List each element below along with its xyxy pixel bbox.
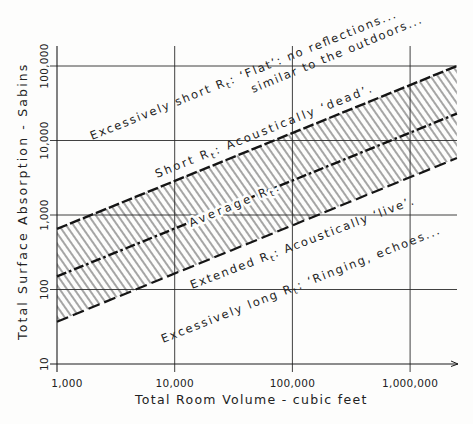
x-tick-label: 1,000,000 [382,377,438,389]
x-tick-label: 10,000 [155,377,194,389]
y-tick-label: 1,000 [38,199,50,231]
y-tick-label: 10,000 [38,121,50,160]
x-axis-title: Total Room Volume - cubic feet [134,392,367,407]
y-tick-label: 100 [38,279,50,300]
y-tick-labels: 101001,00010,000100,000 [38,43,50,371]
y-tick-label: 10 [38,357,50,371]
x-tick-label: 1,000 [51,377,83,389]
hatched-band [57,66,457,322]
x-tick-labels: 1,00010,000100,0001,000,000 [51,377,438,389]
y-axis-title: Total Surface Absorption - Sabins [15,64,30,341]
hatched-band-area [57,66,457,322]
x-tick-label: 100,000 [270,377,316,389]
y-tick-label: 100,000 [38,43,50,89]
reverberation-chart: 101001,00010,000100,000 1,00010,000100,0… [0,0,473,424]
